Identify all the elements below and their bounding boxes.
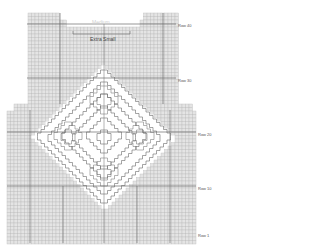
- size-label-extra-small: Extra Small: [90, 36, 116, 42]
- size-label-medium: Medium: [92, 19, 110, 25]
- row-label: Row 40: [178, 23, 192, 28]
- row-label: Row 30: [178, 78, 192, 83]
- row-label: Row 10: [198, 186, 212, 191]
- row-label: Row 20: [198, 132, 212, 137]
- row-label: Row 1: [198, 233, 209, 238]
